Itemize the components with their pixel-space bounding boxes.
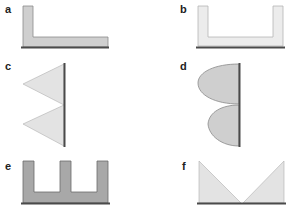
shapes-diagram: a b c d e f <box>0 0 292 210</box>
half-ellipse-top <box>198 64 239 104</box>
triangle-bottom <box>23 105 64 146</box>
panel-label-e: e <box>5 160 11 172</box>
panel-f: f <box>182 160 286 204</box>
panel-a: a <box>5 3 109 48</box>
u-shape <box>198 6 283 46</box>
triangle-left <box>199 161 241 203</box>
half-ellipse-bottom <box>208 105 239 146</box>
panel-e: e <box>5 160 110 204</box>
comb-shape <box>23 161 108 203</box>
triangle-top <box>23 64 64 105</box>
panel-label-f: f <box>182 160 186 172</box>
triangle-right <box>243 161 284 203</box>
panel-label-d: d <box>180 60 187 72</box>
panel-d: d <box>180 60 240 147</box>
panel-label-c: c <box>5 60 11 72</box>
l-shape <box>23 6 108 47</box>
panel-label-a: a <box>5 3 12 15</box>
panel-c: c <box>5 60 65 147</box>
panel-label-b: b <box>180 3 187 15</box>
panel-b: b <box>180 3 285 48</box>
